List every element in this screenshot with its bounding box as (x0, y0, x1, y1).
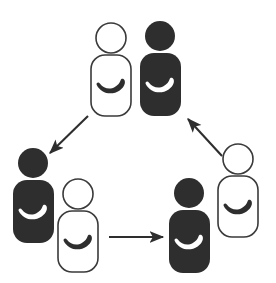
arrow-right-to-top (188, 119, 222, 156)
diagram-canvas (0, 0, 276, 283)
figure-head-outline (96, 23, 126, 53)
figure-body-outline (91, 55, 131, 116)
arrow-top-to-left (50, 116, 88, 153)
figure-top-dark (140, 21, 181, 116)
figure-right-light (218, 144, 258, 237)
figure-body-outline (58, 211, 98, 272)
figure-left-dark (13, 148, 54, 243)
figure-top-light (91, 23, 131, 116)
figure-head-outline (63, 179, 93, 209)
figures-layer (13, 21, 258, 273)
figure-group-left-pair (13, 148, 98, 272)
cycle-diagram (0, 0, 276, 283)
figure-head-filled (145, 21, 175, 51)
figure-head-outline (223, 144, 253, 174)
figure-right-dark (169, 178, 210, 273)
figure-head-filled (174, 178, 204, 208)
figure-body-outline (218, 176, 258, 237)
figure-head-filled (18, 148, 48, 178)
figure-group-right-pair (169, 144, 258, 273)
figure-group-top-pair (91, 21, 181, 116)
figure-left-light (58, 179, 98, 272)
